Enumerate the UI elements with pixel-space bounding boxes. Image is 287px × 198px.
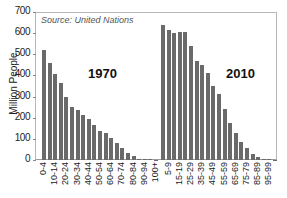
bar-2010-50-54: [217, 94, 221, 160]
x-tick-label: 30-34: [73, 162, 82, 195]
bar-2010-15-19: [178, 32, 182, 160]
bar-1970-55-59: [104, 133, 108, 160]
x-tick-label: 95-99: [264, 162, 273, 195]
bar-1970-0-4: [42, 50, 46, 160]
bar-1970-60-64: [109, 138, 113, 160]
x-tick-label: 65-69: [231, 162, 240, 195]
bar-2010-75-79: [245, 148, 249, 160]
x-tick-label: 100+: [151, 162, 160, 195]
source-note: Source: United Nations: [41, 15, 134, 25]
y-axis-label: Million People: [8, 52, 19, 114]
y-tick-mark: [33, 160, 36, 161]
y-tick-label: 600: [0, 27, 30, 37]
x-tick-label: 50-54: [95, 162, 104, 195]
bar-1970-45-49: [92, 125, 96, 160]
y-tick-mark: [33, 75, 36, 76]
y-tick-label: 700: [0, 6, 30, 16]
bar-2010-100+: [273, 160, 277, 161]
y-tick-label: 200: [0, 112, 30, 122]
bar-2010-25-29: [189, 46, 193, 160]
bar-2010-40-44: [206, 73, 210, 160]
group-label-2010: 2010: [226, 66, 255, 81]
x-tick-label: 5-9: [164, 162, 173, 195]
bar-2010-10-14: [172, 33, 176, 160]
x-tick-label: 10-14: [50, 162, 59, 195]
x-tick-label: 35-39: [197, 162, 206, 195]
bar-1970-75-79: [126, 153, 130, 160]
bar-1970-90-94: [143, 159, 147, 160]
bar-1970-100+: [154, 160, 158, 161]
x-tick-label: 25-29: [186, 162, 195, 195]
bar-1970-95-99: [148, 159, 152, 160]
bar-1970-5-9: [48, 63, 52, 160]
y-tick-label: 300: [0, 91, 30, 101]
bar-2010-55-59: [223, 109, 227, 160]
bar-2010-5-9: [167, 30, 171, 160]
x-tick-label: 80-84: [129, 162, 138, 195]
y-tick-mark: [33, 118, 36, 119]
y-tick-mark: [33, 33, 36, 34]
y-tick-label: 100: [0, 133, 30, 143]
x-tick-label: 45-49: [208, 162, 217, 195]
bar-1970-85-89: [137, 159, 141, 160]
bar-1970-15-19: [59, 83, 63, 160]
bar-1970-35-39: [81, 115, 85, 160]
bar-2010-30-34: [195, 61, 199, 160]
bar-2010-0-4: [161, 25, 165, 160]
bar-1970-80-84: [132, 156, 136, 160]
bar-1970-25-29: [70, 107, 74, 160]
y-tick-label: 400: [0, 69, 30, 79]
bar-1970-10-14: [53, 74, 57, 160]
x-tick-label: 40-44: [84, 162, 93, 195]
bar-2010-85-89: [256, 157, 260, 160]
bar-1970-50-54: [98, 131, 102, 160]
x-tick-label: 20-24: [61, 162, 70, 195]
x-tick-label: 15-19: [175, 162, 184, 195]
bar-2010-60-64: [228, 123, 232, 160]
y-tick-label: 0: [0, 154, 30, 164]
population-bar-chart: Source: United Nations Million People 01…: [0, 0, 287, 198]
bar-2010-35-39: [200, 65, 204, 160]
bar-2010-65-69: [234, 133, 238, 160]
x-tick-label: 0-4: [39, 162, 48, 195]
bar-2010-20-24: [183, 32, 187, 160]
x-tick-label: 75-79: [242, 162, 251, 195]
bar-1970-65-69: [115, 143, 119, 160]
bar-1970-20-24: [64, 97, 68, 160]
bar-2010-45-49: [211, 86, 215, 160]
x-tick-label: 70-74: [117, 162, 126, 195]
bar-1970-30-34: [76, 110, 80, 160]
y-tick-label: 500: [0, 48, 30, 58]
y-tick-mark: [33, 12, 36, 13]
y-tick-mark: [33, 139, 36, 140]
bar-2010-70-74: [239, 142, 243, 160]
x-tick-label: 90-94: [140, 162, 149, 195]
x-tick-label: 60-64: [106, 162, 115, 195]
bar-2010-90-94: [262, 159, 266, 160]
x-tick-label: 55-59: [220, 162, 229, 195]
bar-2010-95-99: [267, 159, 271, 160]
x-tick-label: 85-89: [253, 162, 262, 195]
group-label-1970: 1970: [88, 66, 117, 81]
y-tick-mark: [33, 97, 36, 98]
bar-1970-40-44: [87, 119, 91, 160]
bar-1970-70-74: [120, 148, 124, 160]
bar-2010-80-84: [251, 154, 255, 160]
y-tick-mark: [33, 54, 36, 55]
